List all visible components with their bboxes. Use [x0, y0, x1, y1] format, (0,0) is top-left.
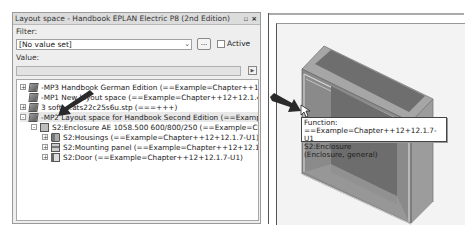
tooltip-function: Function: ==Example=Chapter++12+12.1.7-U…: [304, 119, 444, 143]
layout-space-icon: [28, 103, 38, 112]
apply-filter-button[interactable]: ▶: [248, 66, 257, 75]
annotation-arrow-icon: [54, 88, 94, 118]
pointer-arrow-icon: [270, 93, 302, 115]
layout-space-icon: [28, 83, 38, 92]
tree-item-label: S2:Enclosure AE 1058.500 600/800/250 (==…: [52, 123, 259, 132]
filter-dropdown[interactable]: [No value set] ⌄: [16, 39, 192, 50]
panel-title: Layout space - Handbook EPLAN Electric P…: [15, 14, 230, 23]
chevron-down-icon[interactable]: ⌄: [184, 40, 190, 49]
close-icon[interactable]: ×: [251, 15, 257, 23]
filter-label: Filter:: [16, 27, 37, 36]
active-label: Active: [227, 39, 250, 48]
tree-item-label: S2:Mounting panel (==Example=Chapter++12…: [63, 143, 259, 152]
expand-icon[interactable]: +: [42, 134, 48, 140]
tooltip-description: (Enclosure, general): [304, 151, 444, 159]
expand-icon[interactable]: +: [20, 104, 26, 110]
filter-browse-button[interactable]: ...: [197, 38, 211, 50]
value-input[interactable]: [16, 66, 241, 76]
housing-icon: [51, 133, 60, 142]
layout-space-tree[interactable]: + -MP3 Handbook German Edition (==Exampl…: [16, 79, 259, 221]
tree-item-label: S2:Door (==Example=Chapter++12+12.1.7-U1…: [63, 153, 243, 162]
no-expander: [20, 94, 26, 100]
tree-item-mounting-panel[interactable]: + S2:Mounting panel (==Example=Chapter++…: [42, 142, 259, 152]
pin-icon[interactable]: ▫: [243, 15, 248, 23]
tree-item-door[interactable]: + S2:Door (==Example=Chapter++12+12.1.7-…: [42, 152, 243, 162]
value-label: Value:: [16, 53, 39, 62]
mouse-cursor-icon: [300, 104, 310, 118]
expand-icon[interactable]: +: [20, 84, 26, 90]
expand-icon[interactable]: +: [42, 144, 48, 150]
tree-item-stp[interactable]: + 3 soft_...ats22c25s6u.stp (===+++): [20, 102, 177, 112]
door-icon: [51, 153, 60, 162]
tooltip: Function: ==Example=Chapter++12+12.1.7-U…: [301, 117, 447, 142]
tree-item-housings[interactable]: + S2:Housings (==Example=Chapter++12+12.…: [42, 132, 259, 142]
layout-space-panel: Layout space - Handbook EPLAN Electric P…: [12, 12, 261, 224]
layout-space-icon: [28, 93, 38, 102]
filter-value: [No value set]: [19, 40, 72, 49]
enclosure-icon: [40, 123, 49, 132]
collapse-icon[interactable]: -: [20, 114, 26, 120]
collapse-icon[interactable]: -: [31, 124, 37, 130]
panel-titlebar: Layout space - Handbook EPLAN Electric P…: [13, 13, 260, 25]
active-checkbox[interactable]: [217, 40, 225, 48]
tree-item-enclosure[interactable]: - S2:Enclosure AE 1058.500 600/800/250 (…: [31, 122, 259, 132]
layout-space-icon: [28, 113, 38, 122]
mounting-panel-icon: [51, 143, 60, 152]
tree-item-label: S2:Housings (==Example=Chapter++12+12.1.…: [63, 133, 259, 142]
expand-icon[interactable]: +: [42, 154, 48, 160]
